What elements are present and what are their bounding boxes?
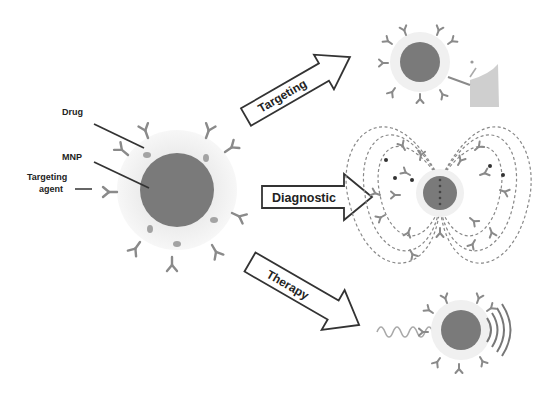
targeting-agent-label: Targeting	[27, 172, 67, 182]
drug-label: Drug	[62, 107, 83, 117]
drug-pointer	[94, 124, 144, 148]
heat-emission-icon	[487, 304, 511, 356]
therapy-arrow: Therapy	[239, 242, 371, 345]
therapy-panel	[377, 293, 511, 373]
diagnostic-arrow: Diagnostic	[262, 174, 372, 220]
main-nanoparticle	[103, 123, 247, 271]
targeting-arrow: Targeting	[236, 40, 360, 135]
targeting-agent-label-2: agent	[39, 184, 63, 194]
mnp-core	[400, 42, 440, 82]
magnetic-core	[140, 153, 214, 227]
diagnostic-arrow-label: Diagnostic	[272, 191, 336, 205]
mnp-label: MNP	[62, 152, 82, 162]
diagnostic-particle	[370, 140, 509, 259]
mnp-applications-diagram: Drug MNP Targeting agent Targeting Diagn…	[0, 0, 537, 394]
mnp-core	[441, 310, 481, 350]
targeting-panel	[379, 25, 499, 107]
